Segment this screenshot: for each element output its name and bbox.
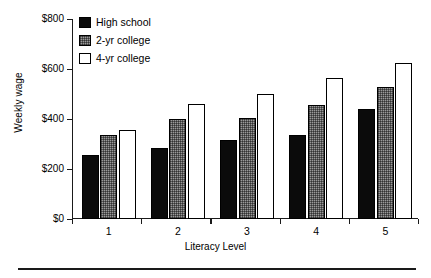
y-axis-tick (67, 69, 72, 70)
x-axis-tick (418, 219, 419, 224)
bar-3-series-3 (257, 94, 274, 219)
legend-item: High school (79, 13, 199, 31)
bar-2-series-1 (151, 148, 168, 219)
bar-2-series-2 (169, 119, 186, 219)
y-axis-tick-label: $600 (20, 64, 64, 74)
bar-2-series-3 (188, 104, 205, 219)
legend-swatch-icon (79, 17, 91, 28)
y-axis-line (72, 19, 73, 219)
y-axis-tick (67, 119, 72, 120)
legend-item: 2-yr college (79, 31, 199, 49)
bar-3-series-1 (220, 140, 237, 219)
bar-5-series-3 (395, 63, 412, 219)
bar-3-series-2 (239, 118, 256, 219)
y-axis-tick-label: $0 (20, 214, 64, 224)
bar-1-series-1 (82, 155, 99, 219)
x-axis-tick (280, 219, 281, 224)
bar-5-series-2 (377, 87, 394, 220)
x-axis-title: Literacy Level (0, 241, 431, 252)
y-axis-tick-labels: $0$200$400$600$800 (18, 0, 64, 278)
x-axis-tick (141, 219, 142, 224)
bar-4-series-2 (308, 105, 325, 219)
y-axis-tick (67, 19, 72, 20)
x-axis-tick-label: 5 (365, 226, 405, 237)
y-axis-tick (67, 169, 72, 170)
y-axis-tick-label: $200 (20, 164, 64, 174)
legend-item: 4-yr college (79, 49, 199, 67)
y-axis-tick-label: $800 (20, 14, 64, 24)
x-axis-tick (210, 219, 211, 224)
bar-1-series-3 (119, 130, 136, 220)
x-axis-tick-label: 1 (89, 226, 129, 237)
bar-chart-figure: Weekly wage $0$200$400$600$800 12345 Lit… (0, 0, 431, 278)
x-axis-tick-label: 2 (158, 226, 198, 237)
legend-item-label: 2-yr college (96, 34, 150, 46)
legend-swatch-icon (79, 53, 91, 64)
x-axis-tick-label: 4 (296, 226, 336, 237)
bottom-divider (18, 268, 416, 270)
bar-1-series-2 (100, 135, 117, 219)
legend: High school2-yr college4-yr college (79, 13, 199, 67)
x-axis-tick-label: 3 (227, 226, 267, 237)
y-axis-tick-label: $400 (20, 114, 64, 124)
bar-4-series-1 (289, 135, 306, 219)
legend-swatch-icon (79, 35, 91, 46)
x-axis-tick (349, 219, 350, 224)
legend-item-label: High school (96, 16, 151, 28)
bar-5-series-1 (358, 109, 375, 219)
bar-4-series-3 (326, 78, 343, 219)
x-axis-tick (72, 219, 73, 224)
legend-item-label: 4-yr college (96, 52, 150, 64)
